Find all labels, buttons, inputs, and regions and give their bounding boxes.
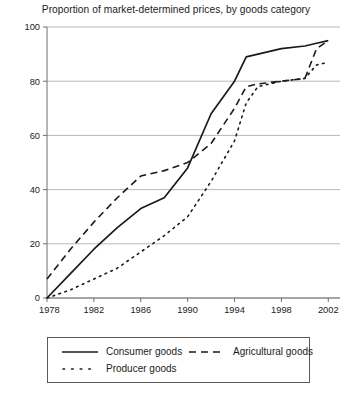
y-tick-label: 20: [30, 239, 40, 249]
x-tick-label: 1978: [39, 305, 60, 315]
y-tick-marks-group: [43, 27, 47, 298]
y-tick-labels-group: 020406080100: [24, 22, 40, 303]
x-tick-label: 2002: [318, 305, 339, 315]
legend-item-producer-goods: Producer goods: [61, 364, 177, 374]
legend-label-consumer-goods: Consumer goods: [106, 347, 182, 357]
data-series-group: [47, 41, 328, 298]
series-line-producer-goods: [47, 62, 328, 298]
legend-item-agricultural-goods: Agricultural goods: [188, 347, 313, 357]
gridlines-group: [47, 27, 340, 298]
legend-swatch-dashed-icon: [188, 347, 226, 357]
axes-group: [47, 27, 340, 298]
chart-figure: Proportion of market-determined prices, …: [0, 0, 352, 394]
y-tick-label: 100: [24, 22, 40, 32]
x-tick-label: 1986: [130, 305, 151, 315]
series-line-agricultural-goods: [47, 41, 328, 279]
x-tick-marks-group: [47, 298, 328, 302]
x-tick-labels-group: 1978198219861990199419982002: [39, 305, 339, 315]
legend-item-consumer-goods: Consumer goods: [61, 347, 182, 357]
legend-swatch-solid-icon: [61, 347, 99, 357]
chart-legend: Consumer goods Agricultural goods Produc…: [47, 337, 310, 383]
legend-swatch-dotted-icon: [61, 364, 99, 374]
line-chart-plot: 020406080100 197819821986199019941998200…: [0, 0, 352, 320]
series-line-consumer-goods: [47, 41, 328, 298]
y-tick-label: 0: [35, 293, 40, 303]
y-tick-label: 40: [30, 185, 40, 195]
legend-label-agricultural-goods: Agricultural goods: [233, 347, 313, 357]
x-tick-label: 1994: [224, 305, 245, 315]
x-tick-label: 1982: [84, 305, 105, 315]
legend-label-producer-goods: Producer goods: [106, 364, 177, 374]
y-tick-label: 60: [30, 131, 40, 141]
x-tick-label: 1990: [177, 305, 198, 315]
y-tick-label: 80: [30, 77, 40, 87]
x-tick-label: 1998: [271, 305, 292, 315]
